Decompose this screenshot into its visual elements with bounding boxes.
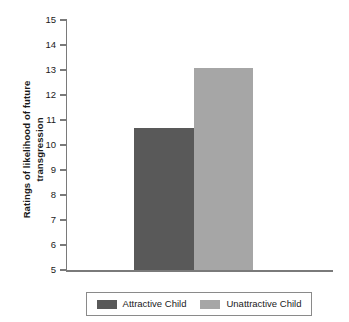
y-tick-label-text: 9: [36, 165, 56, 175]
y-tick-label-8: 8: [36, 190, 56, 200]
legend-entry-attractive-child[interactable]: Attractive Child: [97, 299, 187, 309]
y-tick-label-text: 15: [36, 15, 56, 25]
y-tick-label-6: 6: [36, 240, 56, 250]
y-tick-label-12: 12: [36, 90, 56, 100]
y-tick-label-9: 9: [36, 165, 56, 175]
y-tick-label-text: 12: [36, 90, 56, 100]
bar-unattractive-child[interactable]: [194, 68, 253, 271]
legend-swatch-icon-attractive: [97, 300, 117, 309]
plot-area: [66, 20, 333, 270]
y-tick-label-13: 13: [36, 65, 56, 75]
bar-chart: Ratings of likelihood of future transgre…: [0, 0, 349, 322]
legend-label-unattractive: Unattractive Child: [226, 299, 301, 309]
legend-entry-unattractive-child[interactable]: Unattractive Child: [200, 299, 301, 309]
y-tick-label-text: 13: [36, 65, 56, 75]
bar-attractive-child[interactable]: [134, 128, 194, 271]
y-axis-title-line-1: Ratings of likelihood of future: [21, 35, 34, 265]
x-axis-line: [66, 270, 333, 272]
y-tick-label-text: 7: [36, 215, 56, 225]
y-tick-label-15: 15: [36, 15, 56, 25]
y-tick-label-14: 14: [36, 40, 56, 50]
y-tick-label-7: 7: [36, 215, 56, 225]
y-tick-label-10: 10: [36, 140, 56, 150]
legend-label-attractive: Attractive Child: [123, 299, 187, 309]
chart-legend: Attractive Child Unattractive Child: [86, 292, 312, 316]
y-tick-label-11: 11: [36, 115, 56, 125]
y-tick-label-5: 5: [36, 265, 56, 275]
y-tick-label-text: 11: [36, 115, 56, 125]
y-tick-label-text: 6: [36, 240, 56, 250]
y-tick-label-text: 8: [36, 190, 56, 200]
y-tick-label-text: 10: [36, 140, 56, 150]
y-tick-label-text: 14: [36, 40, 56, 50]
legend-swatch-icon-unattractive: [200, 300, 220, 309]
y-tick-label-text: 5: [36, 265, 56, 275]
